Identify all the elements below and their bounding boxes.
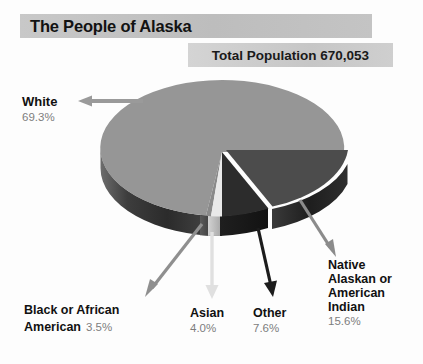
slice-side-asian bbox=[208, 216, 220, 236]
callout-native-line3: American bbox=[328, 286, 392, 300]
callout-asian-category: Asian bbox=[190, 306, 224, 320]
callout-black-category-line1: Black or African bbox=[24, 303, 119, 317]
callout-native-line1: Native bbox=[328, 258, 392, 272]
callout-black-category-line2: American bbox=[24, 320, 81, 334]
callout-white-percent: 69.3% bbox=[22, 111, 57, 124]
callout-other-category: Other bbox=[253, 306, 286, 320]
leader-arrow-black bbox=[145, 224, 202, 297]
callout-native-line2: Alaskan or bbox=[328, 272, 392, 286]
callout-black-or-african-american: Black or African American3.5% bbox=[24, 303, 119, 335]
pie-chart: White 69.3% Black or African American3.5… bbox=[0, 0, 423, 364]
callout-native-alaskan-or-american-indian: Native Alaskan or American Indian 15.6% bbox=[328, 258, 392, 328]
leader-arrow-other bbox=[258, 228, 277, 297]
infographic-root: The People of Alaska Total Population 67… bbox=[0, 0, 423, 364]
callout-black-percent: 3.5% bbox=[86, 321, 112, 333]
callout-other: Other 7.6% bbox=[253, 303, 286, 335]
callout-native-percent: 15.6% bbox=[328, 315, 392, 328]
callout-asian-percent: 4.0% bbox=[190, 322, 224, 335]
callout-native-line4: Indian bbox=[328, 300, 392, 314]
callout-white: White 69.3% bbox=[22, 92, 57, 124]
callout-asian: Asian 4.0% bbox=[190, 303, 224, 335]
leader-arrow-asian bbox=[206, 232, 219, 299]
callout-other-percent: 7.6% bbox=[253, 322, 286, 335]
callout-white-category: White bbox=[22, 94, 57, 109]
